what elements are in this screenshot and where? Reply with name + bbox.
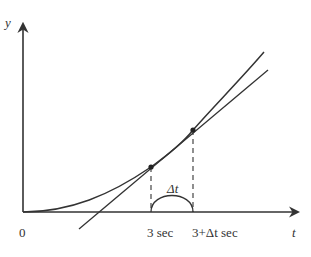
- diagram-canvas: y 0 t 3 sec 3+Δt sec Δt: [0, 0, 311, 257]
- secant-line: [79, 70, 268, 229]
- point-t2: [190, 127, 195, 132]
- y-axis-label: y: [3, 15, 11, 30]
- interval-label: Δt: [166, 181, 179, 196]
- function-curve: [23, 52, 264, 212]
- tick-label-t1: 3 sec: [147, 225, 174, 240]
- x-axis-label: t: [292, 225, 296, 240]
- origin-label: 0: [19, 225, 26, 240]
- interval-arc: [151, 196, 193, 213]
- point-t1: [148, 164, 153, 169]
- tick-label-t2: 3+Δt sec: [192, 225, 238, 240]
